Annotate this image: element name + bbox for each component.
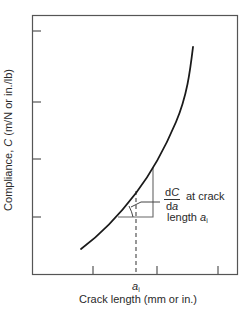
y-axis-label: Compliance, C (m/N or in./lb) (2, 69, 14, 211)
derivative-fraction: dC da (164, 187, 180, 212)
ai-tick-label: ai (132, 280, 140, 293)
y-axis-label-prefix: Compliance, (2, 147, 14, 211)
derivative-numerator: dC (164, 187, 180, 200)
x-axis-label: Crack length (mm or in.) (79, 293, 197, 305)
slope-angle-arc (129, 206, 133, 217)
y-axis-ticks (32, 31, 41, 217)
plot-frame (33, 16, 238, 275)
y-axis-label-units: (m/N or in./lb) (2, 69, 14, 139)
derivative-label-text: at crack (186, 190, 225, 202)
x-axis-ticks (93, 266, 218, 274)
derivative-label-line2: length ai (167, 211, 208, 224)
annotation-leader-line (131, 202, 160, 207)
chart-canvas (0, 0, 251, 318)
y-axis-label-variable: C (2, 139, 14, 147)
